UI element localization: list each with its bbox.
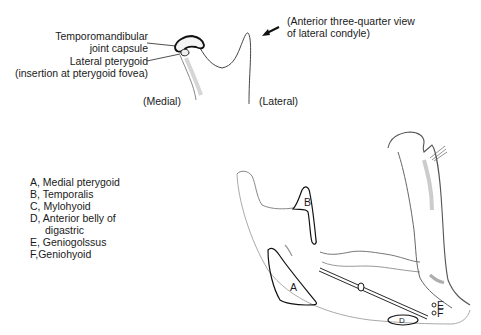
foramen-mark <box>285 245 292 256</box>
near-ramus-inner <box>398 152 452 308</box>
lateral-pterygoid-leader <box>147 54 180 61</box>
marker-f-dot <box>432 311 436 315</box>
legend-item-f: F,Geniohyoid <box>30 248 120 260</box>
view-caption-line-1: (Anterior three-quarter view <box>287 15 415 27</box>
teeth-row-lower <box>322 262 420 272</box>
marker-a-region <box>268 248 317 305</box>
marker-e-dot <box>432 303 436 307</box>
marker-d-label: D <box>399 315 405 327</box>
lateral-label: (Lateral) <box>259 95 298 107</box>
marker-a-label: A <box>290 281 297 293</box>
lateral-pterygoid-line-2: (insertion at pterygoid fovea) <box>15 67 148 79</box>
mandible-drawing <box>237 132 470 324</box>
tmj-capsule-label: Temporomandibular joint capsule <box>55 30 148 54</box>
tmj-capsule-shape <box>175 36 204 52</box>
arrowhead-icon <box>262 29 270 36</box>
view-caption-line-2: of lateral condyle) <box>287 27 415 39</box>
far-ramus-outline <box>237 171 293 209</box>
pterygoid-fovea-shape <box>181 49 189 56</box>
legend-item-e: E, Geniogolssus <box>30 236 120 248</box>
tmj-capsule-line-2: joint capsule <box>55 42 148 54</box>
legend-item-d-continuation: digastric <box>30 224 120 236</box>
legend-item-a: A, Medial pterygoid <box>30 176 120 188</box>
lateral-pterygoid-line-1: Lateral pterygoid <box>15 55 148 67</box>
muscle-legend: A, Medial pterygoid B, Temporalis C, Myl… <box>30 176 120 260</box>
ramus-shading <box>424 160 432 210</box>
tmj-capsule-line-1: Temporomandibular <box>55 30 148 42</box>
tmj-capsule-leader <box>147 43 176 46</box>
condyle-drawing <box>147 27 279 104</box>
marker-c-line <box>319 268 428 319</box>
ramus-bottom-shading <box>430 275 444 282</box>
legend-item-d: D, Anterior belly of <box>30 212 120 224</box>
marker-f-label: F <box>437 307 443 319</box>
teeth-row <box>320 251 420 262</box>
lateral-pterygoid-label: Lateral pterygoid (insertion at pterygoi… <box>15 55 148 79</box>
condyle-outline <box>200 33 251 104</box>
marker-b-label: B <box>304 196 311 208</box>
view-caption: (Anterior three-quarter view of lateral … <box>287 15 415 39</box>
legend-item-c: C, Mylohyoid <box>30 200 120 212</box>
coronoid-fibers <box>430 146 447 161</box>
legend-item-b: B, Temporalis <box>30 188 120 200</box>
marker-c-node <box>358 283 364 291</box>
medial-label: (Medial) <box>143 95 181 107</box>
